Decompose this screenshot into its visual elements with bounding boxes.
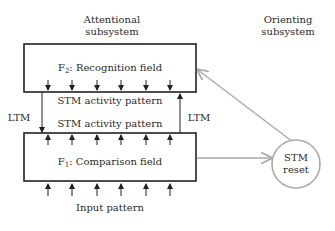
stm-activity-pattern-bottom: STM activity pattern xyxy=(24,118,196,130)
input-arrows xyxy=(48,184,170,196)
stm-activity-pattern-top: STM activity pattern xyxy=(24,95,196,107)
ltm-left-label: LTM xyxy=(4,112,34,124)
f2-down-arrows xyxy=(48,80,170,90)
orienting-subsystem-label: Orientingsubsystem xyxy=(248,14,328,38)
f1-up-arrows xyxy=(48,135,170,145)
f2-recognition-field-label: F2: Recognition field xyxy=(24,62,196,74)
f1-comparison-field-label: F1: Comparison field xyxy=(24,156,196,168)
reset-to-f2-arrow xyxy=(198,70,293,142)
stm-reset-label: STMreset xyxy=(272,152,320,176)
ltm-right-label: LTM xyxy=(184,112,214,124)
input-pattern-label: Input pattern xyxy=(24,202,196,214)
attentional-subsystem-label: Attentionalsubsystem xyxy=(60,14,164,38)
